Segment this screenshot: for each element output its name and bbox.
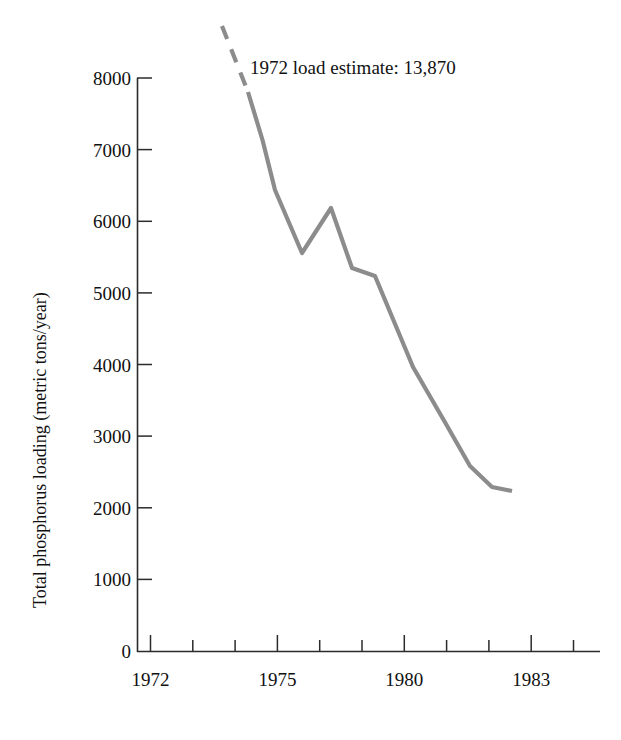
- series-line-total-phosphorus: [248, 92, 512, 491]
- y-tick-label-7000: 7000: [93, 140, 131, 161]
- y-tick-label-0: 0: [122, 641, 132, 662]
- chart-figure: 8000 7000 6000 5000 4000 3000 2000 1000 …: [0, 0, 621, 740]
- annotation-1972-load-estimate: 1972 load estimate: 13,870: [250, 57, 456, 78]
- y-tick-label-3000: 3000: [93, 426, 131, 447]
- y-tick-label-5000: 5000: [93, 283, 131, 304]
- x-tick-label-1975: 1975: [258, 669, 296, 690]
- x-axis-ticks: [151, 635, 574, 651]
- y-tick-label-8000: 8000: [93, 68, 131, 89]
- y-tick-label-6000: 6000: [93, 211, 131, 232]
- x-tick-label-1980: 1980: [385, 669, 423, 690]
- x-tick-label-1983: 1983: [512, 669, 550, 690]
- y-tick-label-2000: 2000: [93, 498, 131, 519]
- y-tick-label-1000: 1000: [93, 569, 131, 590]
- chart-svg: 8000 7000 6000 5000 4000 3000 2000 1000 …: [0, 0, 621, 740]
- x-axis-tick-labels: 1972 1975 1980 1983: [132, 669, 551, 690]
- series-extrapolation-dashed: [222, 26, 248, 92]
- y-axis-tick-labels: 8000 7000 6000 5000 4000 3000 2000 1000 …: [93, 68, 131, 662]
- y-axis-title: Total phosphorus loading (metric tons/ye…: [30, 292, 51, 608]
- x-tick-label-1972: 1972: [132, 669, 170, 690]
- y-axis-ticks: [137, 78, 152, 579]
- y-tick-label-4000: 4000: [93, 355, 131, 376]
